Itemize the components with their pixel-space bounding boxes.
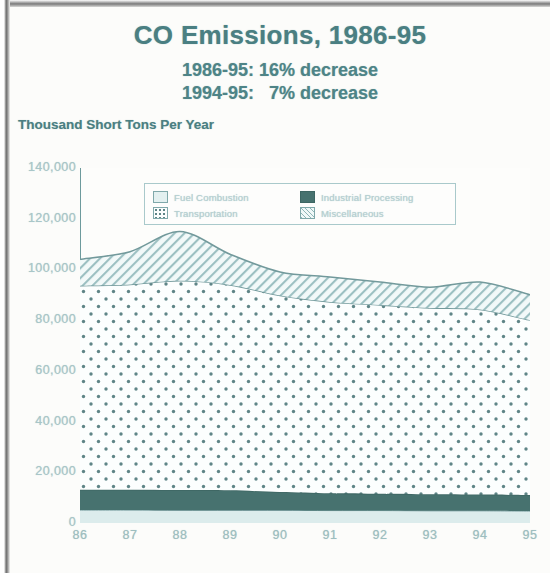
page-top-edge bbox=[10, 0, 550, 7]
y-tick-label: 60,000 bbox=[10, 363, 76, 377]
chart-subtitle-2: 1994-95: 7% decrease bbox=[10, 83, 550, 104]
y-tick-label: 0 bbox=[10, 515, 76, 529]
legend-item-transportation: Transportation bbox=[153, 207, 300, 219]
y-axis-label: Thousand Short Tons Per Year bbox=[18, 117, 214, 132]
x-tick-label: 93 bbox=[413, 528, 447, 542]
legend-item-industrial-processing: Industrial Processing bbox=[300, 191, 447, 203]
legend-label-transportation: Transportation bbox=[174, 208, 238, 219]
chart-subtitle-1: 1986-95: 16% decrease bbox=[10, 60, 550, 81]
x-tick-label: 86 bbox=[63, 528, 97, 542]
x-tick-label: 87 bbox=[113, 528, 147, 542]
legend-swatch-transportation-icon bbox=[153, 207, 168, 219]
y-tick-label: 120,000 bbox=[10, 211, 76, 225]
y-tick-label: 100,000 bbox=[10, 261, 76, 275]
page-left-edge bbox=[0, 0, 10, 573]
legend-label-industrial-processing: Industrial Processing bbox=[321, 192, 413, 203]
x-tick-label: 89 bbox=[213, 528, 247, 542]
chart-legend: Fuel Combustion Industrial Processing Tr… bbox=[144, 183, 456, 225]
legend-row-2: Transportation Miscellaneous bbox=[153, 205, 447, 221]
y-tick-label: 140,000 bbox=[10, 160, 76, 174]
x-tick-label: 92 bbox=[363, 528, 397, 542]
legend-row-1: Fuel Combustion Industrial Processing bbox=[153, 189, 447, 205]
y-tick-label: 40,000 bbox=[10, 414, 76, 428]
x-tick-label: 90 bbox=[263, 528, 297, 542]
legend-label-miscellaneous: Miscellaneous bbox=[321, 208, 384, 219]
legend-label-fuel-combustion: Fuel Combustion bbox=[174, 192, 249, 203]
legend-swatch-fuel-combustion-icon bbox=[153, 191, 168, 203]
x-tick-label: 94 bbox=[463, 528, 497, 542]
y-tick-label: 20,000 bbox=[10, 464, 76, 478]
area-band-fuel-combustion bbox=[80, 510, 530, 523]
legend-item-miscellaneous: Miscellaneous bbox=[300, 207, 447, 219]
chart-title: CO Emissions, 1986-95 bbox=[10, 20, 550, 51]
x-tick-label: 91 bbox=[313, 528, 347, 542]
legend-swatch-miscellaneous-icon bbox=[300, 207, 315, 219]
chart-sheet: CO Emissions, 1986-95 1986-95: 16% decre… bbox=[10, 7, 550, 573]
x-tick-label: 95 bbox=[513, 528, 547, 542]
legend-item-fuel-combustion: Fuel Combustion bbox=[153, 191, 300, 203]
y-tick-label: 80,000 bbox=[10, 312, 76, 326]
legend-swatch-industrial-processing-icon bbox=[300, 191, 315, 203]
x-tick-label: 88 bbox=[163, 528, 197, 542]
area-band-transportation bbox=[80, 281, 530, 495]
